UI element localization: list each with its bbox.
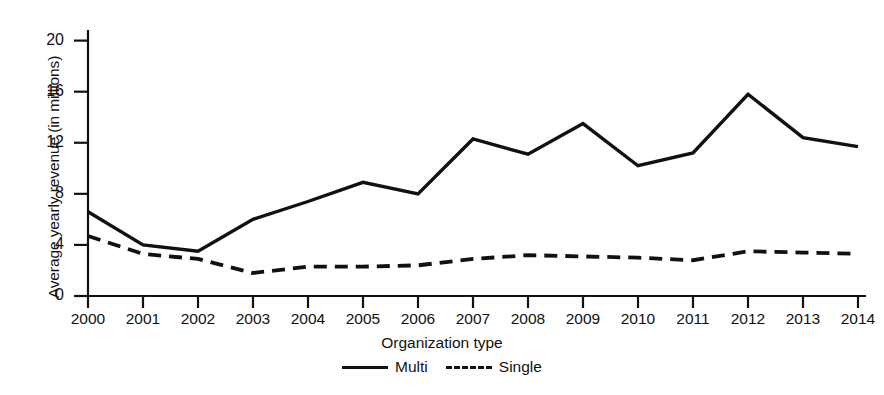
x-axis-tick-label: 2000 <box>59 310 117 328</box>
series-line-single <box>88 236 858 273</box>
y-axis-tick-label: 0 <box>30 286 64 304</box>
y-axis-tick-label: 8 <box>30 184 64 202</box>
axes <box>74 30 866 308</box>
x-axis-tick-label: 2007 <box>444 310 502 328</box>
x-axis-tick-label: 2003 <box>224 310 282 328</box>
x-axis-tick-label: 2002 <box>169 310 227 328</box>
y-axis-tick-label: 16 <box>30 82 64 100</box>
x-axis-tick-label: 2013 <box>774 310 832 328</box>
legend: Multi Single <box>0 358 884 376</box>
legend-item-single: Single <box>446 358 542 376</box>
data-series-group <box>88 94 858 273</box>
line-chart: Average yearly revenue (in millions) 048… <box>0 0 884 395</box>
x-axis-tick-label: 2001 <box>114 310 172 328</box>
x-axis-tick-label: 2010 <box>609 310 667 328</box>
x-axis-tick-label: 2005 <box>334 310 392 328</box>
legend-label-multi: Multi <box>395 358 428 376</box>
y-axis-tick-label: 4 <box>30 235 64 253</box>
legend-swatch-dashed-icon <box>446 366 492 369</box>
legend-title: Organization type <box>0 334 884 352</box>
y-axis-title: Average yearly revenue (in millions) <box>45 27 63 327</box>
x-axis-tick-label: 2014 <box>829 310 884 328</box>
y-axis-ticks <box>74 41 88 296</box>
plot-area <box>0 0 884 330</box>
series-line-multi <box>88 94 858 251</box>
y-axis-tick-label: 20 <box>30 31 64 49</box>
x-axis-tick-label: 2004 <box>279 310 337 328</box>
x-axis-tick-label: 2011 <box>664 310 722 328</box>
x-axis-tick-label: 2009 <box>554 310 612 328</box>
x-axis-tick-label: 2008 <box>499 310 557 328</box>
x-axis-tick-label: 2006 <box>389 310 447 328</box>
x-axis-ticks <box>88 296 858 308</box>
legend-item-multi: Multi <box>342 358 428 376</box>
legend-label-single: Single <box>499 358 542 376</box>
legend-swatch-solid-icon <box>342 366 388 369</box>
y-axis-tick-label: 12 <box>30 133 64 151</box>
x-axis-tick-label: 2012 <box>719 310 777 328</box>
